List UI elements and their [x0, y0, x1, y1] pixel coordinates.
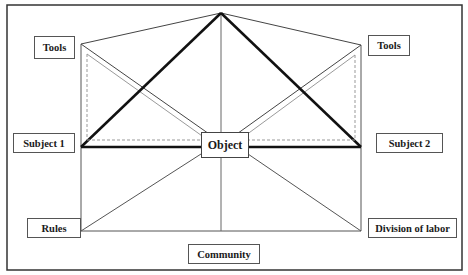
node-community: Community — [188, 244, 260, 264]
tools-left-to-object — [81, 44, 212, 136]
apex-to-tools-right — [221, 13, 361, 45]
subject2-to-apex-thick — [221, 13, 361, 147]
node-rules: Rules — [27, 218, 81, 238]
node-tools-left: Tools — [34, 36, 75, 59]
node-object: Object — [201, 132, 249, 158]
object-to-division-of-labor — [248, 154, 361, 231]
apex-to-tools-left — [81, 13, 221, 44]
node-subject-1: Subject 1 — [13, 133, 75, 153]
tools-right-to-object — [234, 45, 361, 136]
activity-system-diagram: Tools Tools Subject 1 Subject 2 Object R… — [0, 0, 468, 275]
subject1-to-apex-thick — [81, 13, 221, 147]
node-division-of-labor: Division of labor — [368, 218, 457, 238]
object-to-rules — [81, 154, 201, 231]
node-subject-2: Subject 2 — [376, 133, 443, 153]
node-tools-right: Tools — [368, 35, 410, 56]
